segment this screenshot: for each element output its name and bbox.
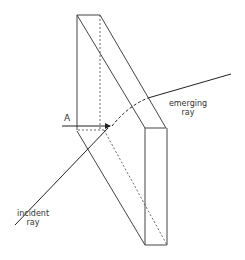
label-emerging-ray: emerging ray: [168, 99, 208, 117]
label-a: A: [64, 114, 70, 123]
emerging-ray: [148, 74, 231, 98]
hidden-edges: [78, 15, 167, 245]
label-incident-line1: incident: [16, 209, 50, 218]
label-incident-line2: ray: [16, 218, 50, 227]
rays: [15, 74, 231, 225]
label-emerging-line2: ray: [168, 108, 208, 117]
label-emerging-line1: emerging: [168, 99, 208, 108]
label-incident-ray: incident ray: [16, 209, 50, 227]
